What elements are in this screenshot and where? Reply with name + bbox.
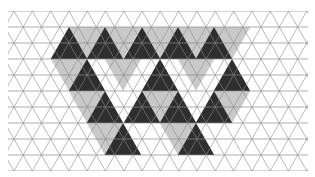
triangle-grid-svg: [0, 0, 315, 177]
triangle-tessellation-figure: [0, 0, 315, 177]
